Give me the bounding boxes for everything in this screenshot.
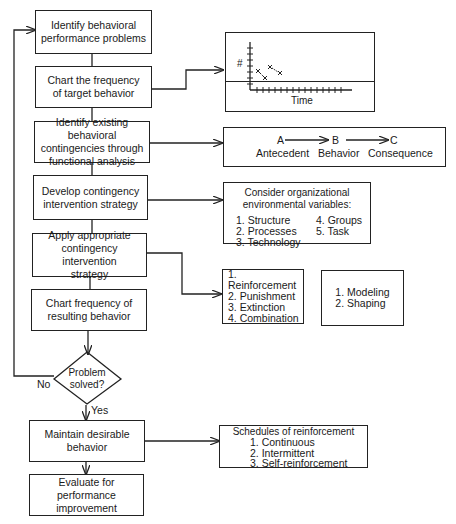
step-text: Evaluate for bbox=[30, 476, 143, 489]
schedule-item: 3. Self-reinforcement bbox=[250, 458, 367, 469]
step-text: behavior bbox=[44, 441, 129, 454]
step-develop-strategy: Develop contingencyintervention strategy bbox=[33, 175, 148, 220]
chart-x-label: Time bbox=[291, 95, 313, 106]
step-evaluate: Evaluate forperformance improvement bbox=[29, 474, 144, 516]
yes-label: Yes bbox=[91, 404, 108, 416]
abc-antecedent: Antecedent bbox=[256, 147, 309, 159]
chart-y-label: # bbox=[237, 58, 243, 69]
step-text: Develop contingency bbox=[42, 185, 139, 198]
step-text: Identify existing behavioral bbox=[35, 116, 149, 142]
step-identify-problems: Identify behavioralperformance problems bbox=[35, 10, 152, 54]
step-text: contingencies through bbox=[35, 142, 149, 155]
abc-consequence: Consequence bbox=[368, 147, 433, 159]
decision-problem-solved: Problem solved? bbox=[60, 367, 114, 391]
step-text: Maintain desirable bbox=[44, 428, 129, 441]
abc-letter-b: B bbox=[332, 134, 339, 146]
step-text: of target behavior bbox=[47, 87, 139, 100]
technique-item: 2. Shaping bbox=[335, 298, 389, 309]
no-label: No bbox=[37, 378, 50, 390]
step-chart-resulting: Chart frequency ofresulting behavior bbox=[31, 289, 147, 331]
decision-text: solved? bbox=[60, 379, 114, 391]
schedules-box: Schedules of reinforcement 1. Continuous… bbox=[219, 425, 368, 468]
variables-title: environmental variables: bbox=[224, 199, 370, 211]
step-text: intervention strategy bbox=[42, 198, 139, 211]
step-maintain-behavior: Maintain desirablebehavior bbox=[29, 420, 145, 462]
step-text: performance problems bbox=[41, 32, 146, 45]
step-functional-analysis: Identify existing behavioralcontingencie… bbox=[34, 121, 150, 163]
step-text: resulting behavior bbox=[46, 310, 132, 323]
abc-behavior: Behavior bbox=[318, 147, 359, 159]
step-apply-strategy: Apply appropriatecontingency interventio… bbox=[32, 233, 147, 277]
variables-title: Consider organizational bbox=[224, 187, 370, 199]
step-text: strategy bbox=[33, 268, 146, 281]
step-text: Identify behavioral bbox=[41, 19, 146, 32]
variable-item: 3. Technology bbox=[236, 237, 316, 248]
step-text: performance improvement bbox=[30, 489, 143, 515]
step-text: Apply appropriate bbox=[33, 229, 146, 242]
decision-text: Problem bbox=[60, 367, 114, 379]
step-text: contingency intervention bbox=[33, 242, 146, 268]
step-chart-frequency: Chart the frequencyof target behavior bbox=[35, 66, 152, 108]
abc-letter-c: C bbox=[390, 134, 398, 146]
variables-box: Consider organizational environmental va… bbox=[223, 182, 371, 244]
schedule-item: 1. Continuous bbox=[250, 437, 367, 448]
variable-item: 5. Task bbox=[316, 226, 362, 237]
abc-letter-a: A bbox=[277, 134, 284, 146]
step-text: functional analysis bbox=[35, 155, 149, 168]
step-text: Chart the frequency bbox=[47, 74, 139, 87]
strategies-box: 1. Reinforcement 2. Punishment 3. Extinc… bbox=[222, 269, 304, 324]
strategy-item: 4. Combination bbox=[228, 313, 303, 324]
step-text: Chart frequency of bbox=[46, 297, 132, 310]
strategy-item: 1. Reinforcement bbox=[228, 269, 303, 291]
techniques-box: 1. Modeling 2. Shaping bbox=[321, 270, 404, 326]
